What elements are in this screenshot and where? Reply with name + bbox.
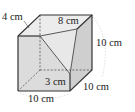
cube-diagram: 4 cm 8 cm 10 cm 3 cm 10 cm 10 cm xyxy=(0,0,135,112)
label-top-back-edge: 8 cm xyxy=(58,15,79,26)
label-bottom-front-width: 10 cm xyxy=(28,93,54,104)
label-right-height: 10 cm xyxy=(96,37,122,48)
label-bottom-right-depth: 10 cm xyxy=(83,81,109,92)
label-pointer xyxy=(24,21,29,28)
label-front-right-lower: 3 cm xyxy=(45,76,66,87)
label-top-left-edge: 4 cm xyxy=(2,11,23,22)
